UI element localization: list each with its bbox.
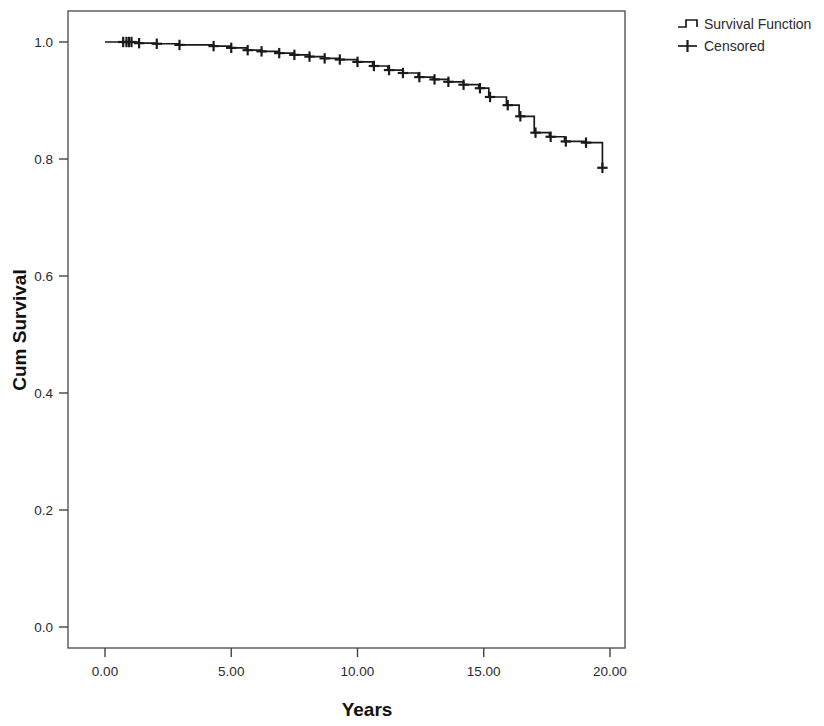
plot-frame [68,11,625,648]
kaplan-meier-plot: 0.005.0010.0015.0020.00 0.00.20.40.60.81… [0,0,824,726]
censored-marker [515,111,525,121]
y-tick-label: 0.8 [34,152,53,167]
censored-marker [485,92,495,102]
censored-marker [242,45,252,55]
plus-tick-icon [678,40,697,52]
censored-marker [319,53,329,63]
x-tick-label: 20.00 [593,664,627,679]
y-tick-label: 0.0 [34,620,53,635]
y-axis-ticks: 0.00.20.40.60.81.0 [34,35,68,635]
censored-marker [304,51,314,61]
x-tick-label: 0.00 [92,664,118,679]
censored-markers [118,37,608,173]
censored-marker [429,74,439,84]
legend-item: Censored [678,38,765,54]
censored-marker [581,137,591,147]
censored-marker [503,100,513,110]
x-tick-label: 5.00 [218,664,244,679]
censored-marker [174,40,184,50]
legend-label: Censored [704,38,765,54]
censored-marker [443,77,453,87]
chart-legend: Survival FunctionCensored [678,16,811,54]
censored-marker [274,48,284,58]
x-tick-label: 15.00 [467,664,501,679]
censored-marker [530,127,540,137]
legend-item: Survival Function [678,16,811,32]
y-tick-label: 0.4 [34,386,53,401]
censored-marker [256,46,266,56]
censored-marker [289,50,299,60]
censored-marker [152,39,162,49]
legend-label: Survival Function [704,16,811,32]
survival-chart-figure: 0.005.0010.0015.0020.00 0.00.20.40.60.81… [0,0,824,726]
censored-marker [352,57,362,67]
x-axis-label: Years [342,699,393,720]
y-axis-label: Cum Survival [9,269,30,390]
y-tick-label: 0.2 [34,503,53,518]
censored-marker [226,43,236,53]
censored-marker [126,37,136,47]
censored-marker [208,41,218,51]
censored-marker [561,136,571,146]
x-tick-label: 10.00 [341,664,375,679]
step-line-icon [678,20,697,27]
censored-marker [134,38,144,48]
x-axis-ticks: 0.005.0010.0015.0020.00 [92,648,627,679]
y-tick-label: 0.6 [34,269,53,284]
censored-marker [335,54,345,64]
censored-marker [597,163,607,173]
y-tick-label: 1.0 [34,35,53,50]
